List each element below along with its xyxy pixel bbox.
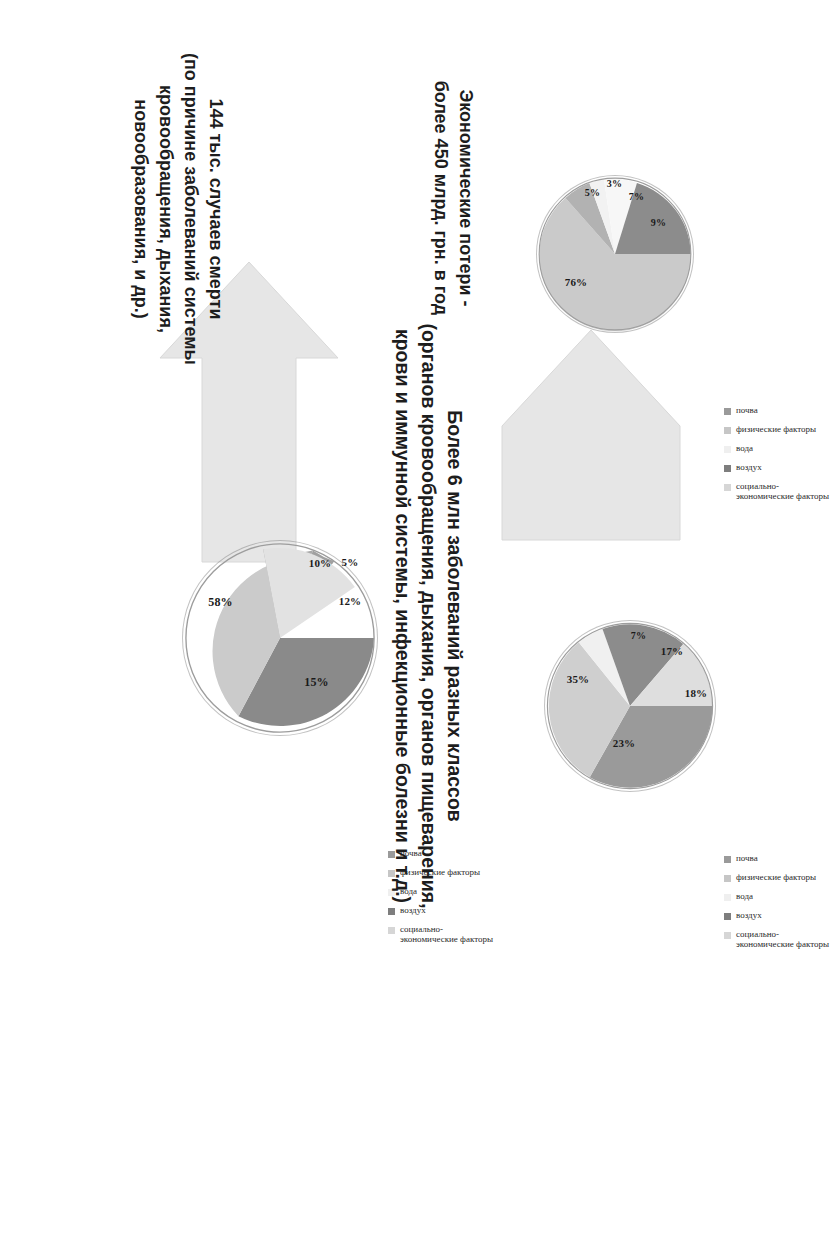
pie-deaths-circle <box>182 540 378 736</box>
legend-item-air[interactable]: воздух <box>724 910 834 920</box>
legend-item-air[interactable]: воздух <box>724 462 834 472</box>
headline-diseases-line3: крови и иммунной системы, инфекционные б… <box>390 176 416 1056</box>
legend-label-water: вода <box>736 891 753 901</box>
legend-label-air: воздух <box>736 910 762 920</box>
legend-item-physical[interactable]: физические факторы <box>724 424 834 434</box>
legend-swatch-soil <box>724 408 731 415</box>
caption-economic-line2: более 450 млрд. грн. в год <box>428 48 453 348</box>
legend-swatch-water <box>724 894 731 901</box>
caption-economic-line1: Экономические потери - <box>453 48 478 348</box>
legend-label-physical: физические факторы <box>736 424 816 434</box>
pie-diseases-label-23: 23% <box>613 737 636 749</box>
pie-economic-svg <box>536 175 694 333</box>
legend-swatch-physical <box>724 875 731 882</box>
caption-deaths-line4: новообразования, и др.) <box>128 44 153 374</box>
pie-deaths-svg <box>182 540 378 736</box>
legend-item-physical[interactable]: физические факторы <box>724 872 834 882</box>
legend-economic-losses: почва физические факторы вода воздух соц… <box>724 405 834 510</box>
legend-label-soil: почва <box>736 853 758 863</box>
pie-chart-economic-losses: 76% 5% 3% 7% 9% <box>536 175 694 333</box>
legend-label-soil: почва <box>736 405 758 415</box>
legend-item-soil[interactable]: почва <box>724 405 834 415</box>
legend-label-physical: физические факторы <box>736 872 816 882</box>
pie-deaths-label-58: 58% <box>208 595 233 610</box>
caption-deaths-line2: (по причине заболеваний системы <box>178 44 203 374</box>
legend-swatch-air <box>724 465 731 472</box>
pie-diseases-label-7: 7% <box>631 630 646 641</box>
caption-economic-losses: Экономические потери - более 450 млрд. г… <box>428 48 478 348</box>
pie-economic-label-76: 76% <box>565 276 588 288</box>
legend-label-socio: социально- экономические факторы <box>736 481 829 501</box>
pie-diseases-label-35: 35% <box>567 673 590 685</box>
legend-item-socio[interactable]: социально- экономические факторы <box>724 929 834 949</box>
pie-economic-label-5: 5% <box>585 187 600 198</box>
legend-swatch-air <box>724 913 731 920</box>
legend-swatch-socio <box>724 932 731 939</box>
legend-item-water[interactable]: вода <box>724 891 834 901</box>
legend-label-socio: социально- экономические факторы <box>736 929 829 949</box>
legend-diseases: почва физические факторы вода воздух соц… <box>724 853 834 958</box>
legend-swatch-soil <box>724 856 731 863</box>
legend-item-socio[interactable]: социально- экономические факторы <box>724 481 834 501</box>
chevron-arrow-economic <box>502 330 680 540</box>
pie-diseases-svg <box>544 620 716 792</box>
legend-swatch-socio <box>724 484 731 491</box>
pie-chart-deaths: 15% 58% 5% 10% 12% <box>182 540 378 736</box>
pie-deaths-label-5: 5% <box>342 556 359 568</box>
legend-swatch-water <box>724 446 731 453</box>
caption-deaths: 144 тыс. случаев смерти (по причине забо… <box>128 44 228 374</box>
legend-label-air: воздух <box>736 462 762 472</box>
pie-economic-label-3: 3% <box>607 178 622 189</box>
legend-item-water[interactable]: вода <box>724 443 834 453</box>
pie-diseases-circle <box>544 620 716 792</box>
pie-economic-label-7: 7% <box>629 191 644 202</box>
pie-chart-diseases: 23% 35% 7% 17% 18% <box>544 620 716 792</box>
pie-diseases-label-18: 18% <box>685 687 708 699</box>
pie-economic-label-9: 9% <box>651 217 666 228</box>
pie-deaths-label-15: 15% <box>304 675 329 690</box>
caption-deaths-line1: 144 тыс. случаев смерти <box>203 44 228 374</box>
pie-deaths-label-12: 12% <box>339 595 362 607</box>
pie-economic-circle <box>536 175 694 333</box>
pie-deaths-label-10: 10% <box>309 557 332 569</box>
pie-diseases-label-17: 17% <box>661 645 684 657</box>
legend-label-water: вода <box>736 443 753 453</box>
legend-item-soil[interactable]: почва <box>724 853 834 863</box>
legend-swatch-physical <box>724 427 731 434</box>
caption-deaths-line3: кровообращения, дыхания, <box>153 44 178 374</box>
